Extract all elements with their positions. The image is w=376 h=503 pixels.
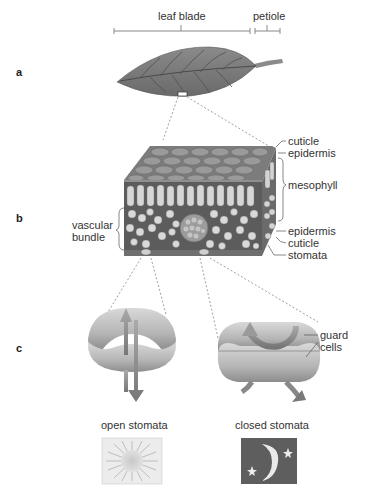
label-cuticle-top: cuticle (288, 135, 319, 147)
label-guard-cells-2: cells (320, 341, 342, 353)
label-epidermis-top: epidermis (288, 147, 336, 159)
label-leaf-blade: leaf blade (158, 10, 206, 22)
panel-label-c: c (16, 342, 22, 354)
label-vascular-bundle-2: bundle (72, 231, 105, 243)
leaf-cross-section (124, 146, 276, 256)
leaf-blade-bracket (114, 25, 250, 34)
panel-label-a: a (16, 66, 22, 78)
moon-stars-icon (241, 438, 297, 484)
leaf-illustration (117, 47, 283, 96)
label-open-stomata: open stomata (101, 419, 168, 431)
open-stomata-illustration (88, 308, 176, 402)
sun-icon (102, 438, 162, 484)
label-epidermis-bottom: epidermis (288, 225, 336, 237)
leaf-section-marker (178, 92, 187, 96)
petiole-bracket (255, 25, 280, 34)
label-guard-cells-1: guard (320, 329, 348, 341)
panel-label-b: b (16, 212, 23, 224)
zoom-lines-a-b (163, 97, 272, 148)
label-vascular-bundle-1: vascular (72, 219, 113, 231)
label-cuticle-bottom: cuticle (288, 237, 319, 249)
label-mesophyll: mesophyll (288, 179, 338, 191)
label-petiole: petiole (253, 10, 285, 22)
closed-stomata-illustration (218, 322, 320, 402)
label-stomata: stomata (288, 249, 327, 261)
label-closed-stomata: closed stomata (235, 419, 309, 431)
